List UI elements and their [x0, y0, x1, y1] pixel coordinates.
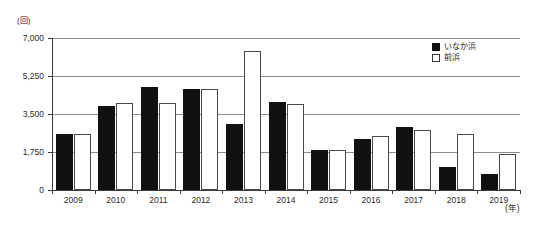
bar — [499, 154, 516, 190]
bar-group — [98, 38, 133, 190]
x-axis-tick-mark — [477, 190, 478, 194]
outlined-white-swatch-icon — [432, 54, 440, 62]
x-axis-tick-label: 2010 — [95, 195, 138, 205]
bar — [159, 103, 176, 190]
x-axis-tick-label: 2012 — [180, 195, 223, 205]
bar — [98, 106, 115, 190]
x-axis-tick-label: 2017 — [392, 195, 435, 205]
bar — [481, 174, 498, 190]
y-axis-tick-label: 1,750 — [0, 147, 44, 157]
x-axis-tick-mark — [392, 190, 393, 194]
bar — [183, 89, 200, 190]
x-axis-tick-mark — [52, 190, 53, 194]
x-axis-tick-mark — [307, 190, 308, 194]
bar — [287, 104, 304, 190]
x-axis-tick-mark — [180, 190, 181, 194]
x-axis-tick-label: 2018 — [435, 195, 478, 205]
bar — [56, 134, 73, 190]
bar-group — [141, 38, 176, 190]
bar — [74, 134, 91, 190]
x-axis-tick-label: 2015 — [307, 195, 350, 205]
x-axis-tick-mark — [435, 190, 436, 194]
bar-group — [311, 38, 346, 190]
y-axis-unit-label: (回) — [17, 14, 30, 25]
bar — [201, 89, 218, 190]
bar-group — [396, 38, 431, 190]
bar-group — [481, 38, 516, 190]
bar-group — [183, 38, 218, 190]
chart-legend: いなか浜 前浜 — [432, 42, 476, 62]
bar — [372, 136, 389, 190]
bar — [354, 139, 371, 190]
x-axis-tick-label: 2013 — [222, 195, 265, 205]
x-axis-tick-mark — [95, 190, 96, 194]
x-axis-tick-mark — [520, 190, 521, 194]
bar-group — [354, 38, 389, 190]
bar — [457, 134, 474, 190]
bar — [116, 103, 133, 190]
x-axis-line — [52, 190, 520, 191]
x-axis-tick-mark — [137, 190, 138, 194]
x-axis-tick-label: 2019 — [477, 195, 520, 205]
bar-group — [56, 38, 91, 190]
legend-label: いなか浜 — [444, 42, 476, 51]
y-axis-tick-label: 7,000 — [0, 33, 44, 43]
y-axis-line — [52, 38, 53, 191]
bar — [396, 127, 413, 190]
x-axis-tick-label: 2011 — [137, 195, 180, 205]
bar — [141, 87, 158, 190]
bar — [226, 124, 243, 190]
y-axis-tick-label: 0 — [0, 185, 44, 195]
bar — [439, 167, 456, 190]
legend-item-maehama: 前浜 — [432, 53, 476, 62]
bar — [329, 150, 346, 190]
legend-item-inakahama: いなか浜 — [432, 42, 476, 51]
x-axis-tick-label: 2016 — [350, 195, 393, 205]
legend-label: 前浜 — [444, 53, 460, 62]
x-axis-tick-mark — [222, 190, 223, 194]
x-axis-tick-label: 2009 — [52, 195, 95, 205]
bar-chart: (回) (年) 01,7503,5005,2507,000 2009201020… — [0, 0, 541, 230]
bar — [311, 150, 328, 190]
bar — [414, 130, 431, 190]
bar-group — [226, 38, 261, 190]
x-axis-tick-mark — [265, 190, 266, 194]
y-axis-tick-label: 5,250 — [0, 71, 44, 81]
y-axis-tick-label: 3,500 — [0, 109, 44, 119]
x-axis-tick-mark — [350, 190, 351, 194]
x-axis-tick-label: 2014 — [265, 195, 308, 205]
filled-black-swatch-icon — [432, 43, 440, 51]
bar-group — [269, 38, 304, 190]
bar — [244, 51, 261, 190]
bar — [269, 102, 286, 190]
